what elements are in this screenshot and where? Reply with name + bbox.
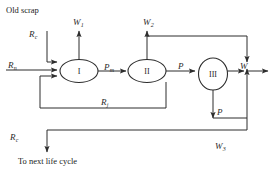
w2-label: W2	[143, 12, 154, 28]
w-out-label: W	[240, 56, 248, 72]
node-stage-2-label: II	[144, 67, 150, 76]
w3-label: W3	[215, 136, 226, 152]
edge-top-return-rail	[147, 36, 247, 62]
rn-label: Rn	[8, 55, 17, 71]
rc-bottom-label: Rc	[10, 127, 18, 143]
to-next-life-cycle-label: To next life cycle	[18, 157, 77, 166]
rj-label: Rj	[101, 92, 108, 108]
w1-label: W1	[73, 12, 84, 28]
rc-top-label: Rc	[29, 24, 37, 40]
flow-diagram: I II III Old scrap Rc Rn W1 W2 Pm P W Rj…	[0, 0, 272, 177]
old-scrap-label: Old scrap	[6, 6, 39, 15]
edge-rc-into-stage1	[47, 31, 57, 62]
node-stage-3-label: III	[209, 70, 217, 79]
p-down-label: P	[217, 102, 223, 118]
diagram-canvas: I II III	[0, 0, 272, 177]
node-stage-1-label: I	[78, 67, 81, 76]
p-mid-label: P	[178, 56, 184, 72]
pm-label: Pm	[104, 57, 114, 73]
